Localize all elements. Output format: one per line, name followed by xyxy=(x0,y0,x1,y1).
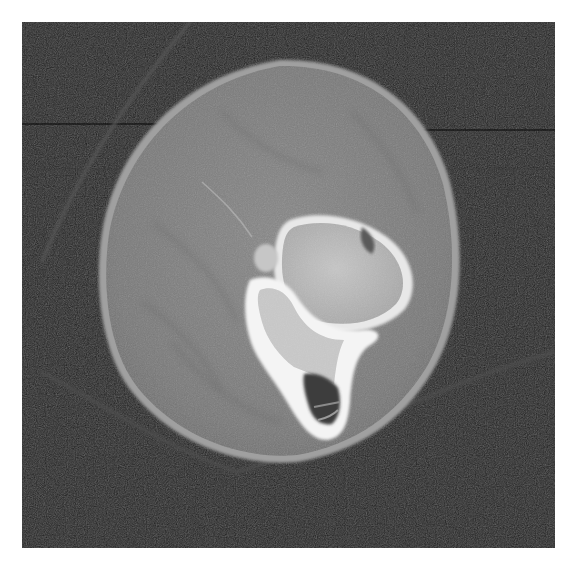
bone-fragment xyxy=(254,244,278,272)
ct-scan-image xyxy=(22,22,555,548)
ct-scan-graphic xyxy=(22,22,555,548)
